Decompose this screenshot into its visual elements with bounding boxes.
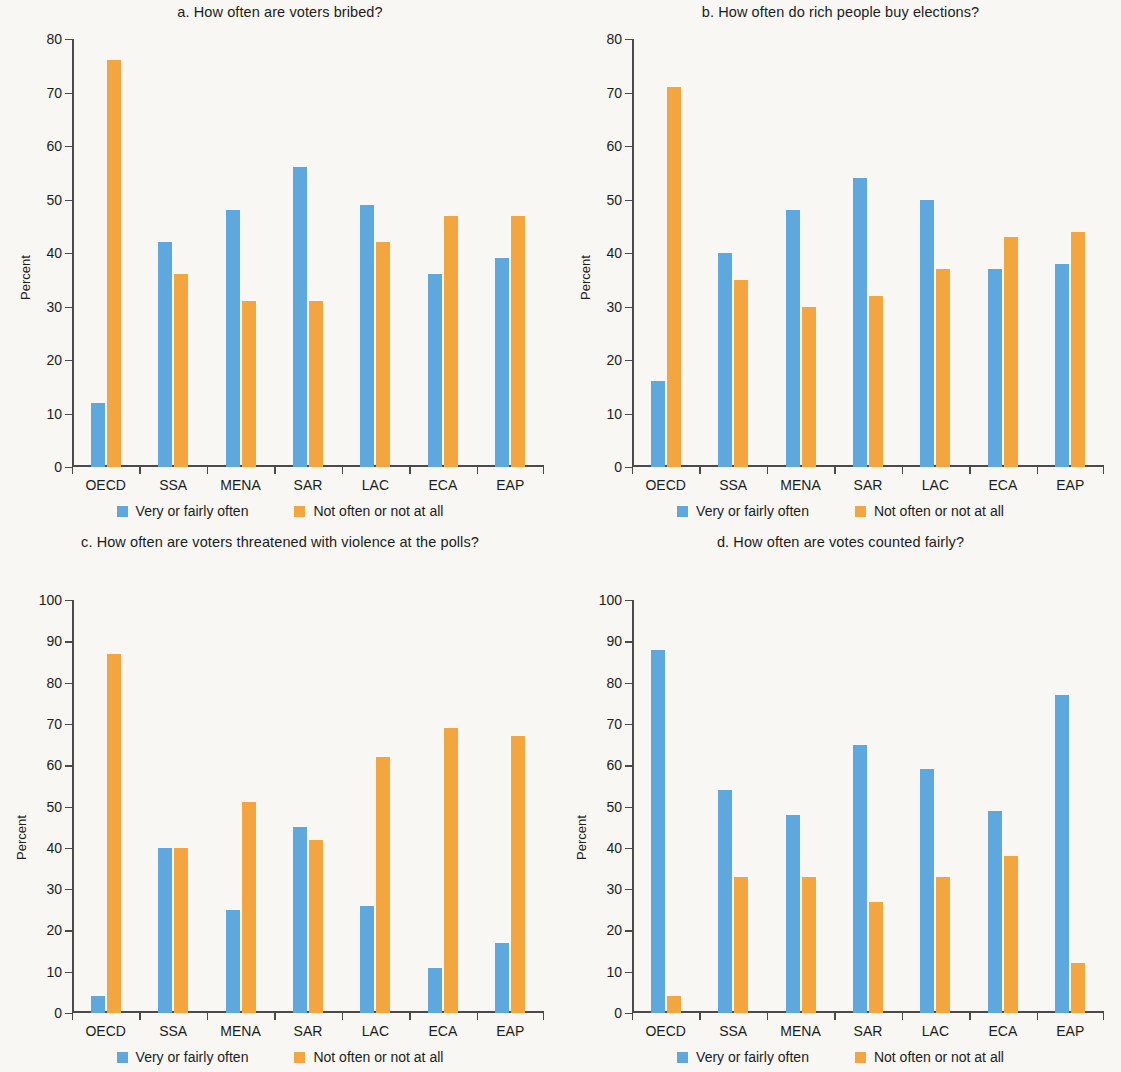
panel-c-y-tick-label: 50 xyxy=(46,799,62,815)
panel-d-y-tick xyxy=(625,765,632,766)
x-label-b-eca: ECA xyxy=(988,477,1017,493)
panel-d-x-tick xyxy=(632,1013,633,1020)
legend-swatch-blue-icon xyxy=(677,506,688,517)
panel-a-x-tick xyxy=(72,467,73,474)
legend-label-orange: Not often or not at all xyxy=(874,503,1004,519)
bar-d-eca-blue xyxy=(988,811,1002,1013)
panel-b-y-tick-label: 0 xyxy=(614,459,622,475)
bar-d-oecd-blue xyxy=(651,650,665,1013)
panel-b-y-tick xyxy=(625,360,632,361)
bar-c-eap-blue xyxy=(495,943,509,1013)
panel-c-y-tick-label: 30 xyxy=(46,881,62,897)
panel-a-x-tick xyxy=(543,467,544,474)
panel-d-y-tick xyxy=(625,683,632,684)
legend-item-blue: Very or fairly often xyxy=(117,1049,249,1065)
bar-c-ssa-blue xyxy=(158,848,172,1013)
panel-b-y-tick-label: 10 xyxy=(606,406,622,422)
panel-c-x-tick xyxy=(139,1013,140,1020)
panel-c-y-tick-label: 90 xyxy=(46,633,62,649)
bar-b-lac-orange xyxy=(936,269,950,467)
legend-swatch-blue-icon xyxy=(677,1052,688,1063)
bar-b-ssa-blue xyxy=(718,253,732,467)
panel-a-x-tick xyxy=(139,467,140,474)
x-label-d-eca: ECA xyxy=(988,1023,1017,1039)
legend-item-blue: Very or fairly often xyxy=(117,503,249,519)
panel-c-y-axis-label: Percent xyxy=(14,815,29,860)
x-label-a-lac: LAC xyxy=(362,477,389,493)
panel-b-x-tick xyxy=(699,467,700,474)
legend-swatch-blue-icon xyxy=(117,506,128,517)
panel-d-y-tick-label: 50 xyxy=(606,799,622,815)
panel-a-y-tick-label: 30 xyxy=(46,299,62,315)
panel-c-y-tick xyxy=(65,641,72,642)
panel-d-y-tick-label: 30 xyxy=(606,881,622,897)
panel-a-y-tick xyxy=(65,253,72,254)
panel-a-y-tick xyxy=(65,200,72,201)
panel-d-y-tick xyxy=(625,930,632,931)
bar-b-eap-orange xyxy=(1071,232,1085,467)
panel-c-y-tick-label: 70 xyxy=(46,716,62,732)
panel-a-x-tick xyxy=(409,467,410,474)
bar-a-ssa-blue xyxy=(158,242,172,467)
panel-b-x-tick xyxy=(1103,467,1104,474)
panel-b-y-tick-label: 30 xyxy=(606,299,622,315)
bar-c-eca-orange xyxy=(444,728,458,1013)
bar-a-eca-blue xyxy=(428,274,442,467)
panel-d-y-tick xyxy=(625,600,632,601)
bar-a-ssa-orange xyxy=(174,274,188,467)
legend-item-orange: Not often or not at all xyxy=(294,503,443,519)
bar-b-ssa-orange xyxy=(734,280,748,467)
bar-a-sar-blue xyxy=(293,167,307,467)
chart-panel-a: a. How often are voters bribed? Percent … xyxy=(0,0,560,530)
panel-c-y-tick xyxy=(65,724,72,725)
x-label-b-lac: LAC xyxy=(922,477,949,493)
panel-a-y-tick-label: 10 xyxy=(46,406,62,422)
x-label-d-ssa: SSA xyxy=(719,1023,747,1039)
panel-a-title: a. How often are voters bribed? xyxy=(0,4,560,20)
panel-a-y-axis-label: Percent xyxy=(18,255,33,300)
x-label-b-mena: MENA xyxy=(780,477,820,493)
panel-d-x-tick xyxy=(969,1013,970,1020)
panel-c-y-tick-label: 100 xyxy=(39,592,62,608)
panel-b-y-tick xyxy=(625,93,632,94)
panel-c-y-tick-label: 0 xyxy=(54,1005,62,1021)
panel-d-x-tick xyxy=(1103,1013,1104,1020)
legend-swatch-orange-icon xyxy=(855,1052,866,1063)
bar-b-oecd-orange xyxy=(667,87,681,467)
bar-d-lac-orange xyxy=(936,877,950,1013)
x-label-a-oecd: OECD xyxy=(85,477,125,493)
panel-d-y-tick-label: 70 xyxy=(606,716,622,732)
legend-item-orange: Not often or not at all xyxy=(294,1049,443,1065)
panel-c-y-tick xyxy=(65,765,72,766)
panel-d-y-tick-label: 20 xyxy=(606,922,622,938)
panel-b-y-tick xyxy=(625,146,632,147)
panel-d-y-tick xyxy=(625,848,632,849)
x-label-b-eap: EAP xyxy=(1056,477,1084,493)
legend-item-orange: Not often or not at all xyxy=(855,503,1004,519)
panel-b-y-tick xyxy=(625,414,632,415)
bar-d-sar-orange xyxy=(869,902,883,1014)
panel-c-y-tick-label: 40 xyxy=(46,840,62,856)
panel-d-y-tick xyxy=(625,807,632,808)
chart-panel-c: c. How often are voters threatened with … xyxy=(0,530,560,1072)
panel-c-y-tick xyxy=(65,807,72,808)
bar-a-lac-orange xyxy=(376,242,390,467)
legend-label-orange: Not often or not at all xyxy=(874,1049,1004,1065)
bar-d-oecd-orange xyxy=(667,996,681,1013)
legend-swatch-orange-icon xyxy=(855,506,866,517)
panel-a-plot-area: 01020304050607080 xyxy=(72,39,544,467)
chart-panel-d: d. How often are votes counted fairly? P… xyxy=(560,530,1121,1072)
x-label-a-mena: MENA xyxy=(220,477,260,493)
panel-c-y-tick xyxy=(65,972,72,973)
x-label-d-oecd: OECD xyxy=(645,1023,685,1039)
panel-b-y-tick-label: 20 xyxy=(606,352,622,368)
panel-a-y-tick-label: 80 xyxy=(46,31,62,47)
bar-b-sar-blue xyxy=(853,178,867,467)
panel-b-y-axis-label: Percent xyxy=(578,255,593,300)
panel-a-x-tick xyxy=(274,467,275,474)
x-label-b-oecd: OECD xyxy=(645,477,685,493)
x-label-c-ssa: SSA xyxy=(159,1023,187,1039)
panel-d-x-tick xyxy=(699,1013,700,1020)
panel-c-y-tick xyxy=(65,683,72,684)
x-label-c-eca: ECA xyxy=(428,1023,457,1039)
